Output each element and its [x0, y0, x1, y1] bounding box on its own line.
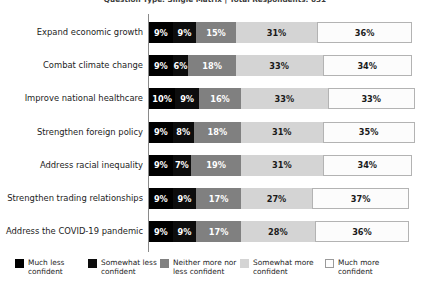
- bar-segment: 9%: [173, 221, 197, 242]
- bar-segment: 17%: [196, 188, 241, 209]
- bar-segment: 28%: [241, 221, 315, 242]
- stacked-bar-chart: Question Type: Single Matrix | Total Res…: [0, 0, 430, 299]
- bar-segment: 36%: [315, 221, 410, 242]
- bar-segment: 15%: [196, 22, 235, 43]
- legend-item[interactable]: Somewhat moreconfident: [240, 258, 314, 276]
- legend-label: Somewhat lessconfident: [101, 258, 157, 276]
- chart-title: Question Type: Single Matrix | Total Res…: [0, 0, 430, 4]
- legend-item[interactable]: Neither more norless confident: [160, 258, 236, 276]
- chart-legend: Much lessconfidentSomewhat lessconfident…: [0, 258, 430, 292]
- row-label: Strengthen trading relationships: [0, 188, 143, 209]
- legend-item[interactable]: Somewhat lessconfident: [88, 258, 157, 276]
- legend-label-line2: confident: [338, 267, 379, 276]
- bar-segment: 9%: [149, 155, 173, 176]
- bar-segment: 35%: [323, 122, 415, 143]
- bar-segment: 31%: [241, 155, 323, 176]
- bar-segment: 33%: [236, 55, 323, 76]
- stacked-bar: 10%9%16%33%33%: [149, 88, 412, 109]
- bar-segment: 8%: [173, 122, 194, 143]
- chart-row: Strengthen foreign policy9%8%18%31%35%: [0, 122, 430, 143]
- bar-segment: 33%: [241, 88, 328, 109]
- legend-label: Somewhat moreconfident: [253, 258, 314, 276]
- bar-segment: 9%: [175, 88, 199, 109]
- stacked-bar: 9%6%18%33%34%: [149, 55, 412, 76]
- legend-item[interactable]: Much moreconfident: [325, 258, 379, 276]
- legend-label-line1: Neither more nor: [173, 258, 236, 267]
- chart-row: Address racial inequality9%7%19%31%34%: [0, 155, 430, 176]
- bar-segment: 18%: [194, 122, 241, 143]
- bar-segment: 18%: [188, 55, 235, 76]
- legend-label-line1: Much less: [28, 258, 64, 267]
- row-label: Improve national healthcare: [0, 88, 143, 109]
- legend-swatch-icon: [160, 259, 169, 268]
- chart-row: Improve national healthcare10%9%16%33%33…: [0, 88, 430, 109]
- bar-segment: 36%: [317, 22, 412, 43]
- bar-segment: 9%: [149, 22, 173, 43]
- bar-segment: 9%: [149, 55, 173, 76]
- legend-swatch-icon: [325, 259, 334, 268]
- bar-segment: 34%: [323, 155, 412, 176]
- bar-segment: 9%: [149, 188, 173, 209]
- legend-label-line2: confident: [28, 267, 64, 276]
- bar-segment: 9%: [149, 122, 173, 143]
- stacked-bar: 9%9%17%27%37%: [149, 188, 412, 209]
- row-label: Expand economic growth: [0, 22, 143, 43]
- bar-segment: 31%: [241, 122, 323, 143]
- legend-label: Much lessconfident: [28, 258, 64, 276]
- stacked-bar: 9%9%15%31%36%: [149, 22, 412, 43]
- chart-row: Combat climate change9%6%18%33%34%: [0, 55, 430, 76]
- legend-label-line2: confident: [253, 267, 314, 276]
- bar-segment: 27%: [241, 188, 312, 209]
- bar-segment: 10%: [149, 88, 175, 109]
- bar-segment: 6%: [173, 55, 189, 76]
- plot-area: Expand economic growth9%9%15%31%36%Comba…: [0, 14, 430, 256]
- legend-item[interactable]: Much lessconfident: [15, 258, 64, 276]
- bar-segment: 33%: [328, 88, 415, 109]
- legend-label-line1: Somewhat more: [253, 258, 314, 267]
- row-label: Strengthen foreign policy: [0, 122, 143, 143]
- bar-segment: 19%: [191, 155, 241, 176]
- stacked-bar: 9%7%19%31%34%: [149, 155, 412, 176]
- legend-label-line1: Much more: [338, 258, 379, 267]
- bar-segment: 9%: [149, 221, 173, 242]
- legend-label-line1: Somewhat less: [101, 258, 157, 267]
- stacked-bar: 9%9%17%28%36%: [149, 221, 412, 242]
- bar-segment: 17%: [196, 221, 241, 242]
- row-label: Address the COVID-19 pandemic: [0, 221, 143, 242]
- chart-row: Address the COVID-19 pandemic9%9%17%28%3…: [0, 221, 430, 242]
- legend-label-line2: confident: [101, 267, 157, 276]
- bar-segment: 37%: [312, 188, 409, 209]
- legend-swatch-icon: [240, 259, 249, 268]
- bar-segment: 16%: [199, 88, 241, 109]
- legend-label-line2: less confident: [173, 267, 236, 276]
- chart-row: Strengthen trading relationships9%9%17%2…: [0, 188, 430, 209]
- stacked-bar: 9%8%18%31%35%: [149, 122, 412, 143]
- chart-row: Expand economic growth9%9%15%31%36%: [0, 22, 430, 43]
- row-label: Address racial inequality: [0, 155, 143, 176]
- bar-segment: 31%: [236, 22, 318, 43]
- bar-segment: 34%: [323, 55, 412, 76]
- legend-label: Much moreconfident: [338, 258, 379, 276]
- bar-segment: 9%: [173, 22, 197, 43]
- bar-segment: 7%: [173, 155, 191, 176]
- legend-swatch-icon: [88, 259, 97, 268]
- row-label: Combat climate change: [0, 55, 143, 76]
- bar-segment: 9%: [173, 188, 197, 209]
- legend-swatch-icon: [15, 259, 24, 268]
- legend-label: Neither more norless confident: [173, 258, 236, 276]
